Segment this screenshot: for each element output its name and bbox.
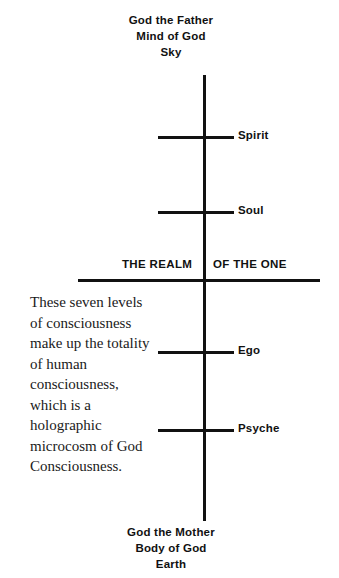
top-pole-line-3: Sky [3, 44, 339, 60]
bottom-pole-caption: God the Mother Body of God Earth [0, 524, 339, 572]
top-pole-caption: God the Father Mind of God Sky [0, 12, 339, 60]
realm-divider-rule [78, 279, 320, 282]
tier-label-spirit: Spirit [238, 129, 269, 141]
bottom-pole-line-2: Body of God [3, 540, 339, 556]
diagram-canvas: God the Father Mind of God Sky Spirit So… [0, 0, 339, 578]
tier-rule-spirit [158, 136, 234, 139]
tier-label-soul: Soul [238, 204, 264, 216]
explanatory-note: These seven levels of consciousness make… [30, 292, 150, 477]
tier-label-psyche: Psyche [238, 422, 279, 434]
top-pole-line-2: Mind of God [3, 28, 339, 44]
tier-label-ego: Ego [238, 344, 260, 356]
top-pole-line-1: God the Father [3, 12, 339, 28]
bottom-pole-line-3: Earth [3, 556, 339, 572]
tier-rule-soul [158, 211, 234, 214]
tier-rule-psyche [158, 429, 234, 432]
realm-divider-right-label: OF THE ONE [213, 258, 287, 270]
realm-divider-left-label: THE REALM [122, 258, 192, 270]
vertical-axis-line [203, 75, 206, 521]
tier-rule-ego [158, 351, 234, 354]
bottom-pole-line-1: God the Mother [3, 524, 339, 540]
